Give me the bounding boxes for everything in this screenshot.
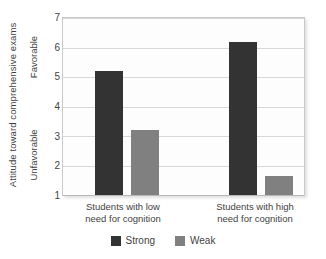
bar-chart: Attitude toward comprehensive exams Favo…	[0, 0, 326, 259]
bar-strong-group-0	[95, 71, 123, 195]
gridline-1	[63, 195, 304, 196]
legend-swatch-weak-icon	[175, 236, 185, 246]
y-axis-anchor-unfavorable-label: Unfavorable	[28, 129, 39, 180]
x-axis-label-low-need-line1: Students with low	[66, 201, 180, 213]
legend-label-strong: Strong	[126, 236, 155, 246]
y-tick-2: 2	[46, 161, 60, 171]
bar-weak-group-1	[265, 176, 293, 195]
bar-weak-group-0	[131, 130, 159, 195]
x-axis-label-high-need: Students with high need for cognition	[198, 201, 312, 225]
legend-swatch-strong-icon	[111, 236, 121, 246]
y-tick-5: 5	[46, 72, 60, 82]
y-tick-4: 4	[46, 102, 60, 112]
y-axis-title: Attitude toward comprehensive exams	[2, 12, 22, 198]
y-axis-anchor-unfavorable: Unfavorable	[24, 120, 42, 190]
y-axis-anchor-favorable: Favorable	[24, 22, 42, 92]
x-axis-label-high-need-line2: need for cognition	[198, 213, 312, 225]
y-tick-7: 7	[46, 13, 60, 23]
gridline-6	[63, 48, 304, 49]
chart-legend: Strong Weak	[0, 236, 326, 246]
plot-area	[62, 17, 305, 196]
legend-item-strong: Strong	[111, 236, 155, 246]
x-axis-label-low-need: Students with low need for cognition	[66, 201, 180, 225]
x-axis-label-high-need-line1: Students with high	[198, 201, 312, 213]
y-axis-title-label: Attitude toward comprehensive exams	[7, 23, 18, 188]
y-tick-1: 1	[46, 191, 60, 201]
gridline-7	[63, 18, 304, 19]
bar-strong-group-1	[229, 42, 257, 195]
y-tick-6: 6	[46, 43, 60, 53]
y-axis-anchor-favorable-label: Favorable	[28, 36, 39, 78]
y-tick-3: 3	[46, 132, 60, 142]
y-axis-tick-labels: 7 6 5 4 3 2 1	[44, 0, 60, 259]
x-axis-label-low-need-line2: need for cognition	[66, 213, 180, 225]
legend-label-weak: Weak	[190, 236, 215, 246]
legend-item-weak: Weak	[175, 236, 215, 246]
